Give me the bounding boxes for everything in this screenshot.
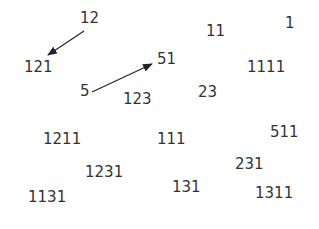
node-label-121: 121 bbox=[24, 60, 53, 75]
node-label-1: 1 bbox=[285, 16, 295, 31]
arrow-5-to-51 bbox=[92, 64, 152, 92]
node-label-23: 23 bbox=[198, 85, 217, 100]
node-label-51: 51 bbox=[157, 52, 176, 67]
diagram-canvas: 12 121 5 51 123 11 1 1111 23 1211 111 51… bbox=[0, 0, 319, 229]
arrow-12-to-121 bbox=[48, 31, 84, 55]
node-label-131: 131 bbox=[172, 180, 201, 195]
node-label-5: 5 bbox=[80, 84, 90, 99]
node-label-12: 12 bbox=[80, 11, 99, 26]
node-label-111: 111 bbox=[157, 132, 186, 147]
node-label-1131: 1131 bbox=[28, 190, 66, 205]
node-label-1211: 1211 bbox=[43, 132, 81, 147]
node-label-1111: 1111 bbox=[247, 60, 285, 75]
node-label-11: 11 bbox=[206, 24, 225, 39]
node-label-511: 511 bbox=[270, 125, 299, 140]
node-label-123: 123 bbox=[123, 92, 152, 107]
node-label-231: 231 bbox=[235, 157, 264, 172]
node-label-1311: 1311 bbox=[255, 186, 293, 201]
node-label-1231: 1231 bbox=[85, 165, 123, 180]
